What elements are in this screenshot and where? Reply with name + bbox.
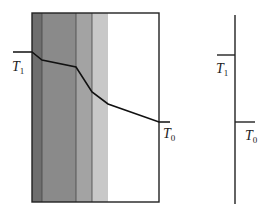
layer-2: [42, 13, 76, 202]
layer-3: [76, 13, 92, 202]
label-t1: T1: [216, 61, 228, 78]
label-t0: T0: [163, 126, 176, 143]
layer-4: [92, 13, 108, 202]
diagram-canvas: T1 T0 T1 T0: [0, 0, 267, 213]
label-t1: T1: [12, 59, 24, 76]
left-panel: T1 T0: [12, 13, 176, 202]
layer-1: [32, 13, 42, 202]
label-t0: T0: [245, 128, 258, 145]
right-panel: T1 T0: [216, 15, 258, 204]
